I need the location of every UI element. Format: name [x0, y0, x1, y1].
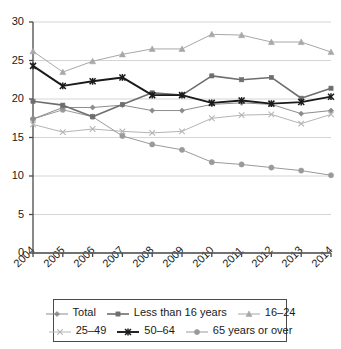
legend-swatch	[185, 324, 209, 336]
legend-row: TotalLess than 16 years16–24	[58, 303, 282, 321]
marker-square	[120, 102, 124, 106]
series-16-24	[30, 31, 334, 74]
marker-circle	[239, 162, 244, 167]
legend-row: 25–4950–6465 years or over	[58, 321, 282, 339]
marker-square	[329, 86, 333, 90]
legend-swatch	[45, 306, 69, 318]
marker-circle	[120, 133, 125, 138]
legend-marker-triangle-icon	[237, 308, 261, 320]
marker-square	[31, 99, 35, 103]
legend-item-label: Total	[73, 306, 96, 318]
legend-marker-asterisk-icon	[116, 326, 140, 338]
series-50-64	[30, 62, 334, 107]
legend-item-16-24[interactable]: 16–24	[237, 306, 296, 318]
marker-square	[116, 312, 120, 316]
marker-circle	[299, 168, 304, 173]
marker-square	[91, 115, 95, 119]
series-25-49	[30, 112, 334, 136]
legend-item-label: Less than 16 years	[134, 306, 227, 318]
legend-item-25-49[interactable]: 25–49	[48, 324, 107, 336]
legend-item-label: 25–49	[76, 324, 107, 336]
marker-triangle	[60, 69, 66, 75]
marker-triangle	[30, 48, 36, 54]
legend-item-label: 16–24	[265, 306, 296, 318]
legend-swatch	[48, 324, 72, 336]
series-line	[33, 34, 331, 72]
marker-square	[240, 78, 244, 82]
line-chart: 051015202530 200420052006200720082009201…	[0, 0, 341, 349]
legend-item-label: 50–64	[144, 324, 175, 336]
legend-swatch	[237, 306, 261, 318]
legend-item-label: 65 years or over	[213, 324, 292, 336]
legend-item-total[interactable]: Total	[45, 306, 96, 318]
legend-marker-diamond-icon	[45, 308, 69, 320]
legend-swatch	[106, 306, 130, 318]
marker-circle	[179, 147, 184, 152]
marker-diamond	[90, 105, 95, 110]
marker-circle	[269, 165, 274, 170]
marker-circle	[194, 329, 199, 334]
legend-marker-square-icon	[106, 308, 130, 320]
legend-item-50-64[interactable]: 50–64	[116, 324, 175, 336]
legend-swatch	[116, 324, 140, 336]
marker-square	[210, 74, 214, 78]
plot-area	[0, 0, 341, 300]
marker-square	[269, 75, 273, 79]
marker-circle	[328, 173, 333, 178]
marker-diamond	[179, 108, 184, 113]
marker-circle	[209, 160, 214, 165]
marker-square	[61, 103, 65, 107]
legend-marker-circle-icon	[185, 326, 209, 338]
marker-diamond	[54, 311, 59, 316]
marker-diamond	[150, 108, 155, 113]
legend-item-less-than-16-years[interactable]: Less than 16 years	[106, 306, 227, 318]
marker-diamond	[299, 111, 304, 116]
series-line	[33, 110, 331, 175]
series-line	[33, 114, 331, 132]
legend-item-65-years-or-over[interactable]: 65 years or over	[185, 324, 292, 336]
chart-legend: TotalLess than 16 years16–24 25–4950–646…	[53, 299, 287, 342]
series-65-years-or-over	[30, 107, 333, 178]
legend-marker-cross-icon	[48, 326, 72, 338]
marker-circle	[150, 142, 155, 147]
